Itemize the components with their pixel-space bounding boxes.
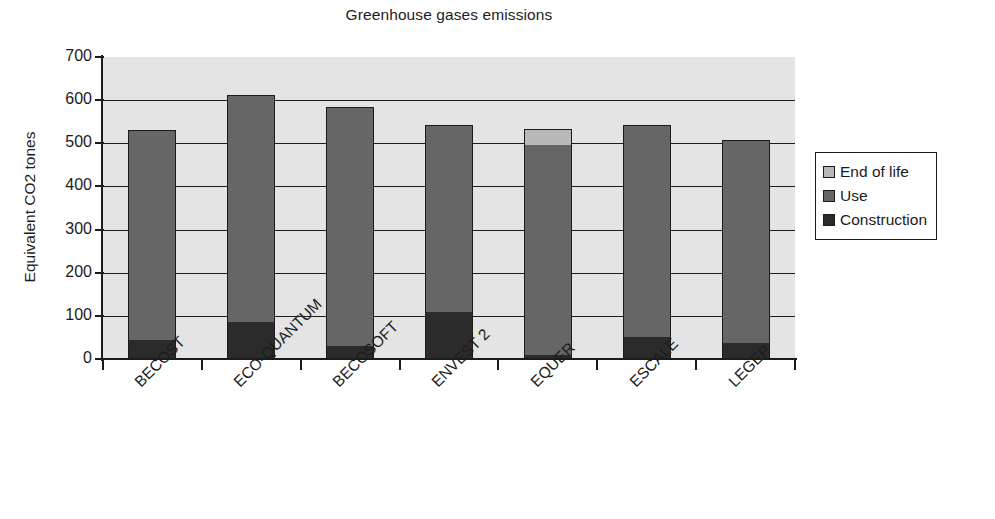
legend-item[interactable]: End of life (823, 160, 927, 184)
x-axis-tick (201, 360, 203, 370)
bar-escale (623, 125, 671, 359)
bar-segment-use (722, 140, 770, 342)
y-axis-title-text: Equivalent CO2 tones (21, 57, 39, 357)
legend-swatch-icon (823, 190, 835, 202)
x-axis-tick (300, 360, 302, 370)
y-axis-tick-label: 700 (46, 47, 92, 65)
bar-equer (524, 129, 572, 359)
x-axis-tick (497, 360, 499, 370)
y-axis-tick-label: 100 (46, 306, 92, 324)
bar-segment-use (227, 95, 275, 323)
bar-segment-use (524, 145, 572, 355)
bar-segment-use (128, 130, 176, 339)
y-axis-tick-label: 600 (46, 90, 92, 108)
legend-swatch-icon (823, 166, 835, 178)
y-axis-tick-labels: 7006005004003002001000 (46, 57, 92, 359)
bar-segment-use (623, 125, 671, 338)
x-axis-tick (399, 360, 401, 370)
chart-title: Greenhouse gases emissions (103, 6, 795, 24)
bar-segment-use (326, 107, 374, 346)
bar-legep (722, 140, 770, 359)
legend-item[interactable]: Construction (823, 208, 927, 232)
legend-swatch-icon (823, 214, 835, 226)
bar-becost (128, 130, 176, 359)
bar-segment-endoflife (524, 129, 572, 145)
legend-item[interactable]: Use (823, 184, 927, 208)
x-axis-tick (695, 360, 697, 370)
bar-envest-2 (425, 125, 473, 359)
legend: End of lifeUseConstruction (815, 152, 937, 240)
bar-group (103, 57, 795, 359)
bar-segment-use (425, 125, 473, 312)
plot-area (103, 57, 795, 359)
y-axis-tick-label: 200 (46, 263, 92, 281)
x-axis-tick (794, 360, 796, 370)
bar-becosoft (326, 107, 374, 359)
y-axis-title: Equivalent CO2 tones (21, 57, 43, 357)
legend-item-label: Construction (840, 211, 927, 229)
bar-eco-quantum (227, 95, 275, 359)
x-axis-tick (596, 360, 598, 370)
legend-item-label: End of life (840, 163, 909, 181)
chart-figure: Greenhouse gases emissions Equivalent CO… (0, 0, 995, 519)
y-axis-tick-label: 0 (46, 349, 92, 367)
y-axis-tick-label: 300 (46, 220, 92, 238)
y-axis-line (101, 55, 103, 361)
legend-item-label: Use (840, 187, 868, 205)
y-axis-tick-label: 400 (46, 176, 92, 194)
x-axis-tick (102, 360, 104, 370)
y-axis-tick-label: 500 (46, 133, 92, 151)
